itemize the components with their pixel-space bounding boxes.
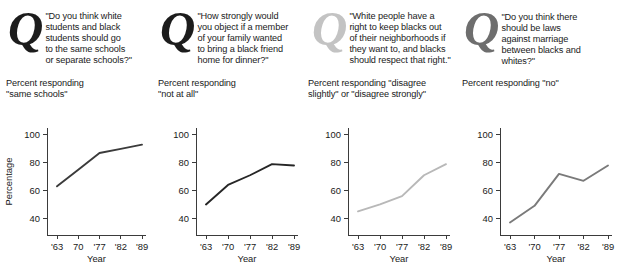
svg-text:100: 100 <box>325 129 341 140</box>
svg-text:60: 60 <box>331 185 341 196</box>
svg-text:100: 100 <box>477 129 493 140</box>
svg-text:Year: Year <box>547 253 566 264</box>
question-block: Q "White people have a right to keep bla… <box>312 4 454 76</box>
svg-text:60: 60 <box>30 185 40 196</box>
svg-text:40: 40 <box>179 213 189 224</box>
panel-neighborhoods: Q "White people have a right to keep bla… <box>304 0 456 275</box>
svg-text:'82: '82 <box>418 241 430 252</box>
line-chart-marriage: 406080100'63'70'77'82'89Year <box>456 110 618 275</box>
svg-text:80: 80 <box>179 157 189 168</box>
svg-text:Year: Year <box>390 253 409 264</box>
panel-subtitle: Percent responding "disagree slightly" o… <box>308 78 454 101</box>
svg-text:Percentage: Percentage <box>3 158 14 206</box>
svg-text:'89: '89 <box>136 241 148 252</box>
svg-text:80: 80 <box>331 157 341 168</box>
drop-cap-q-letter: Q <box>312 6 346 51</box>
svg-text:'77: '77 <box>553 241 565 252</box>
svg-text:'63: '63 <box>504 241 516 252</box>
panel-subtitle: Percent responding "same schools" <box>6 78 150 101</box>
survey-trends-figure: Q "Do you think white students and black… <box>0 0 618 275</box>
panel-dinner: Q "How strongly would you object if a me… <box>152 0 304 275</box>
svg-text:Year: Year <box>238 253 257 264</box>
panel-subtitle: Percent responding "no" <box>462 78 616 89</box>
svg-text:80: 80 <box>483 157 493 168</box>
line-chart-dinner: 406080100'63'70'77'82'89Year <box>152 110 304 275</box>
svg-text:'63: '63 <box>51 241 63 252</box>
svg-text:'77: '77 <box>93 241 105 252</box>
question-block: Q "Do you think white students and black… <box>8 4 150 76</box>
svg-text:40: 40 <box>483 213 493 224</box>
svg-text:'89: '89 <box>602 241 614 252</box>
drop-cap-q-letter: Q <box>8 6 42 51</box>
svg-text:60: 60 <box>483 185 493 196</box>
question-block: Q "Do you think there should be laws aga… <box>464 4 616 76</box>
drop-cap-q-letter: Q <box>464 6 498 51</box>
panel-subtitle: Percent responding "not at all" <box>158 78 302 101</box>
svg-text:'82: '82 <box>266 241 278 252</box>
svg-text:100: 100 <box>24 129 40 140</box>
svg-text:'82: '82 <box>577 241 589 252</box>
question-text: "Do you think white students and black s… <box>45 4 150 66</box>
svg-text:'82: '82 <box>115 241 127 252</box>
question-text: "Do you think there should be laws again… <box>501 4 616 67</box>
svg-text:60: 60 <box>179 185 189 196</box>
svg-text:'63: '63 <box>200 241 212 252</box>
svg-text:40: 40 <box>30 213 40 224</box>
svg-text:40: 40 <box>331 213 341 224</box>
svg-text:70: 70 <box>73 241 83 252</box>
svg-text:'89: '89 <box>288 241 300 252</box>
svg-text:100: 100 <box>173 129 189 140</box>
svg-text:'70: '70 <box>222 241 234 252</box>
svg-text:'77: '77 <box>244 241 256 252</box>
drop-cap-q-letter: Q <box>160 6 194 51</box>
svg-text:'89: '89 <box>440 241 452 252</box>
line-chart-schools: 406080100'6370'77'82'89YearPercentage <box>0 110 152 275</box>
svg-text:'63: '63 <box>352 241 364 252</box>
svg-text:'70: '70 <box>528 241 540 252</box>
question-text: "How strongly would you object if a memb… <box>197 4 302 66</box>
question-block: Q "How strongly would you object if a me… <box>160 4 302 76</box>
line-chart-neighborhoods: 406080100'63'70'77'82'89Year <box>304 110 456 275</box>
svg-text:'77: '77 <box>396 241 408 252</box>
svg-text:Year: Year <box>87 253 106 264</box>
panel-schools: Q "Do you think white students and black… <box>0 0 152 275</box>
svg-text:80: 80 <box>30 157 40 168</box>
panel-marriage: Q "Do you think there should be laws aga… <box>456 0 618 275</box>
svg-text:'70: '70 <box>374 241 386 252</box>
question-text: "White people have a right to keep black… <box>349 4 454 66</box>
